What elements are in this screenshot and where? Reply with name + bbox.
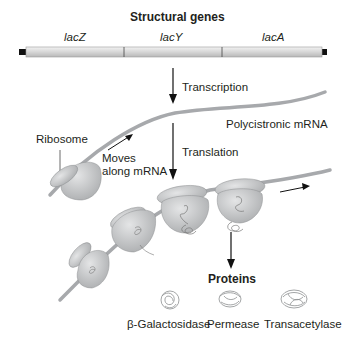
diagram-graphics [0,0,342,338]
ribosome-single [47,161,101,200]
protein-beta-galactosidase-icon [161,291,179,309]
protein-name-transacetylase: Transacetylase [264,318,342,330]
structural-genes-title: Structural genes [130,10,225,24]
translation-label: Translation [182,146,238,158]
gene-label-lacz: lacZ [64,31,86,43]
transcription-label: Transcription [182,81,248,93]
ribosome-4 [214,177,265,232]
moves-label-line2: along mRNA [102,165,167,177]
ribosome-label: Ribosome [36,133,88,145]
gene-label-laca: lacA [262,31,284,43]
transcription-arrow [169,68,177,104]
elongation-direction-arrow [280,183,310,192]
gene-label-lacy: lacY [160,31,182,43]
ribosome-1 [65,239,109,288]
proteins-arrow [227,232,235,269]
moves-label-line1: Moves [102,152,136,164]
protein-permease-icon [219,291,241,307]
ribosome-3 [156,183,209,234]
protein-name-permease: Permease [207,318,259,330]
protein-transacetylase-icon [281,290,307,308]
polycistronic-mrna-label: Polycistronic mRNA [226,118,328,130]
translation-arrow [169,123,177,180]
protein-name-beta-galactosidase: β-Galactosidase [127,318,210,330]
proteins-label: Proteins [208,272,256,286]
structural-gene-bar [19,47,327,57]
